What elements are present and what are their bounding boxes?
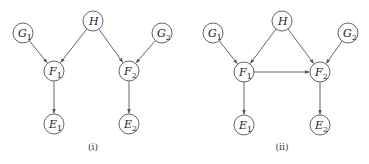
edge-g2-to-f2 <box>136 41 156 64</box>
edge-h-to-f2 <box>288 29 314 64</box>
node-g2: G2 <box>338 23 358 43</box>
node-f1: F1 <box>234 62 254 82</box>
node-e2: E2 <box>119 114 139 134</box>
edge-g2-to-f2 <box>326 41 342 63</box>
diagram-caption: (i) <box>88 142 98 152</box>
node-f2: F2 <box>310 62 330 82</box>
node-e2: E2 <box>310 115 330 135</box>
diagram-caption: (ii) <box>276 142 289 152</box>
node-e1: E1 <box>44 114 64 134</box>
edge-h-to-f1 <box>250 29 276 64</box>
node-g2: G2 <box>152 23 172 43</box>
edge-g1-to-f1 <box>29 41 47 63</box>
bayesian-network-diagrams: HG1G2F1F2E1E2HG1G2F1F2E1E2 (i)(ii) <box>0 0 369 164</box>
node-g1: G1 <box>203 23 223 43</box>
edge-h-to-f1 <box>60 29 86 63</box>
edge-h-to-f2 <box>99 29 123 62</box>
edge-g1-to-f1 <box>219 41 237 64</box>
node-g1: G1 <box>13 23 33 43</box>
node-f2: F2 <box>119 61 139 81</box>
node-label: H <box>277 15 288 28</box>
node-label: H <box>88 15 99 28</box>
node-h: H <box>272 11 292 31</box>
node-e1: E1 <box>234 115 254 135</box>
node-f1: F1 <box>44 61 64 81</box>
node-h: H <box>83 11 103 31</box>
